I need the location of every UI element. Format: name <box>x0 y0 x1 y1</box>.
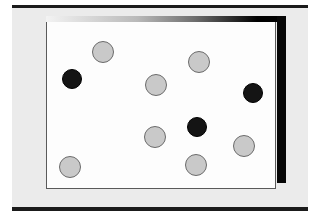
gray-dot <box>233 135 255 157</box>
dots-layer <box>0 0 327 220</box>
gray-dot <box>144 126 166 148</box>
black-dot <box>62 69 82 89</box>
black-dot <box>187 117 207 137</box>
gray-dot <box>59 156 81 178</box>
gray-dot <box>92 41 114 63</box>
black-dot <box>243 83 263 103</box>
gray-dot <box>188 51 210 73</box>
gray-dot <box>185 154 207 176</box>
gray-dot <box>145 74 167 96</box>
